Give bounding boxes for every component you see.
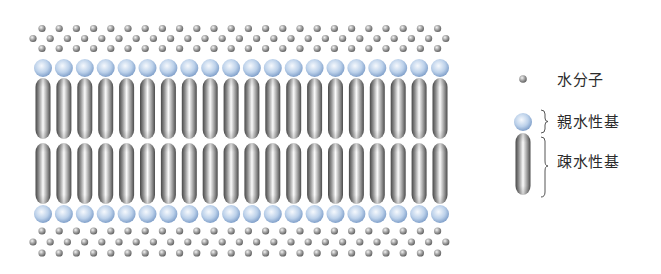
water-molecule	[210, 227, 217, 234]
tail-shading	[328, 143, 343, 204]
water-molecule	[210, 25, 217, 32]
hydrophilic-head-bottom	[180, 205, 198, 223]
water-molecule	[365, 227, 372, 234]
water-molecule	[365, 249, 372, 256]
water-molecule	[150, 35, 157, 42]
hydrophilic-head-bottom	[347, 205, 365, 223]
tail-shading	[224, 78, 239, 139]
hydrophilic-head-bottom	[222, 205, 240, 223]
water-molecule	[81, 35, 88, 42]
water-molecule	[124, 249, 131, 256]
water-molecule	[331, 25, 338, 32]
tail-shading	[36, 143, 51, 204]
water-molecule	[124, 45, 131, 52]
water-molecule	[133, 238, 140, 245]
legend-label-water-molecule: 水分子	[557, 71, 604, 89]
tail-shading	[391, 143, 406, 204]
legend-water-molecule-icon	[519, 75, 527, 83]
tail-shading	[224, 143, 239, 204]
water-molecule	[73, 45, 80, 52]
tail-shading	[370, 143, 385, 204]
water-molecule	[56, 249, 63, 256]
water-molecule	[262, 227, 269, 234]
water-molecule	[365, 45, 372, 52]
tail-shading	[161, 78, 176, 139]
water-molecule	[124, 227, 131, 234]
water-molecule	[64, 238, 71, 245]
water-molecule	[228, 249, 235, 256]
water-molecule	[167, 238, 174, 245]
water-molecule	[193, 227, 200, 234]
water-molecule	[29, 35, 36, 42]
water-molecule	[425, 35, 432, 42]
water-molecule	[434, 25, 441, 32]
tail-shading	[119, 78, 134, 139]
tail-shading	[349, 143, 364, 204]
water-molecule	[331, 249, 338, 256]
water-molecule	[228, 45, 235, 52]
brace-hydrophilic-icon	[541, 110, 548, 133]
water-molecule	[159, 227, 166, 234]
hydrophilic-head-bottom	[389, 205, 407, 223]
water-molecule	[142, 25, 149, 32]
tail-shading	[328, 78, 343, 139]
water-molecule	[210, 249, 217, 256]
water-molecule	[253, 35, 260, 42]
water-molecule	[133, 35, 140, 42]
water-molecule	[270, 35, 277, 42]
hydrophilic-head-bottom	[368, 205, 386, 223]
tail-shading	[391, 78, 406, 139]
water-molecule	[408, 238, 415, 245]
water-layer-top	[29, 25, 449, 52]
tail-shading	[244, 78, 259, 139]
water-molecule	[287, 35, 294, 42]
tail-shading	[140, 78, 155, 139]
water-molecule	[305, 35, 312, 42]
water-molecule	[348, 45, 355, 52]
water-molecule	[408, 35, 415, 42]
water-molecule	[314, 45, 321, 52]
tail-shading	[56, 143, 71, 204]
hydrophilic-head-bottom	[97, 205, 115, 223]
water-molecule	[167, 35, 174, 42]
hydrophilic-head-top	[139, 59, 157, 77]
hydrophilic-head-top	[243, 59, 261, 77]
tail-shading	[203, 78, 218, 139]
hydrophilic-head-bottom	[55, 205, 73, 223]
water-molecule	[38, 45, 45, 52]
hydrophilic-head-top	[222, 59, 240, 77]
water-molecule	[245, 227, 252, 234]
tail-shading	[203, 143, 218, 204]
water-molecule	[107, 227, 114, 234]
water-molecule	[296, 45, 303, 52]
water-molecule	[90, 227, 97, 234]
water-molecule	[400, 45, 407, 52]
water-molecule	[322, 238, 329, 245]
water-molecule	[98, 35, 105, 42]
hydrophilic-head-top	[201, 59, 219, 77]
water-molecule	[47, 238, 54, 245]
tail-shading	[140, 143, 155, 204]
tail-shading	[244, 143, 259, 204]
hydrophilic-heads-top	[34, 59, 449, 77]
water-molecule	[184, 35, 191, 42]
water-molecule	[142, 227, 149, 234]
water-molecule	[107, 45, 114, 52]
water-molecule	[142, 45, 149, 52]
tail-shading	[77, 78, 92, 139]
water-molecule	[90, 45, 97, 52]
water-molecule	[29, 238, 36, 245]
tail-shading	[98, 78, 113, 139]
water-molecule	[417, 249, 424, 256]
water-molecule	[115, 238, 122, 245]
water-molecule	[279, 45, 286, 52]
water-molecule	[279, 227, 286, 234]
water-molecule	[107, 25, 114, 32]
water-molecule	[305, 238, 312, 245]
water-molecule	[236, 35, 243, 42]
water-molecule	[73, 249, 80, 256]
water-molecule	[219, 238, 226, 245]
hydrophilic-head-bottom	[34, 205, 52, 223]
tail-shading	[307, 143, 322, 204]
hydrophilic-head-top	[97, 59, 115, 77]
